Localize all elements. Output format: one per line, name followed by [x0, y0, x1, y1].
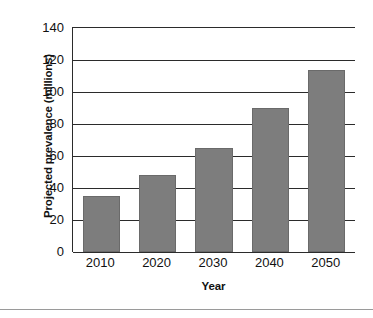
- bar-series: [73, 28, 355, 252]
- x-tick-label: 2020: [128, 256, 184, 269]
- y-tick-label: 80: [10, 117, 64, 130]
- y-tick-label: 0: [10, 245, 64, 258]
- bottom-divider: [0, 309, 373, 310]
- y-axis-tick-labels: 140 120 100 80 60 40 20 0: [0, 27, 72, 252]
- y-tick-label: 100: [10, 85, 64, 98]
- x-tick-label: 2050: [298, 256, 354, 269]
- x-tick-label: 2040: [241, 256, 297, 269]
- x-tick-label: 2010: [72, 256, 128, 269]
- bar: [195, 148, 232, 252]
- y-tick-label: 60: [10, 149, 64, 162]
- x-axis-tick-labels: 20102020203020402050: [72, 256, 355, 278]
- y-tick-label: 40: [10, 181, 64, 194]
- x-axis-title: Year: [72, 280, 355, 292]
- y-tick-label: 20: [10, 213, 64, 226]
- bar: [83, 196, 120, 252]
- bar: [139, 175, 176, 252]
- y-tick-label: 120: [10, 53, 64, 66]
- bar: [252, 108, 289, 252]
- y-tick-label: 140: [10, 21, 64, 34]
- bar-chart-figure: Projected prevalence (millions) 140 120 …: [0, 0, 373, 318]
- plot-area: [72, 27, 355, 252]
- bar: [308, 70, 345, 252]
- gridline: [73, 252, 355, 253]
- x-tick-label: 2030: [185, 256, 241, 269]
